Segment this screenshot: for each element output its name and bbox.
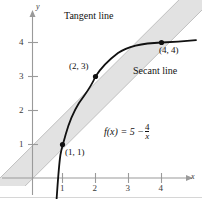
x-axis-label: x: [191, 173, 195, 181]
y-axis-arrowhead: [30, 10, 36, 17]
formula-lhs: f(x) = 5 −: [104, 126, 144, 137]
y-tick-2: 2: [19, 106, 24, 115]
point-label-1-1: (1, 1): [65, 148, 85, 157]
point-label-4-4: (4, 4): [159, 46, 179, 55]
x-tick-2: 2: [93, 184, 98, 193]
function-formula: f(x) = 5 −4x: [104, 124, 149, 142]
y-tick-4: 4: [19, 38, 24, 47]
formula-numerator: 4: [145, 123, 150, 131]
x-tick-3: 3: [126, 184, 131, 193]
formula-denominator: x: [145, 131, 150, 141]
y-tick-1: 1: [19, 140, 24, 149]
figure-canvas: [0, 0, 202, 199]
point-label-2-3: (2, 3): [69, 62, 89, 71]
formula-fraction: 4x: [145, 123, 150, 141]
x-tick-4: 4: [159, 184, 164, 193]
tangent-secant-figure: x y 1 2 3 4 1 2 3 4 Tangent line Secant …: [0, 0, 202, 199]
y-axis-label: y: [36, 3, 40, 11]
secant-line-label: Secant line: [133, 66, 177, 76]
x-tick-1: 1: [60, 184, 65, 193]
point-marker-2-3: [93, 74, 98, 79]
shaded-band: [0, 0, 202, 199]
y-tick-3: 3: [19, 72, 24, 81]
tangent-line-label: Tangent line: [64, 11, 114, 21]
